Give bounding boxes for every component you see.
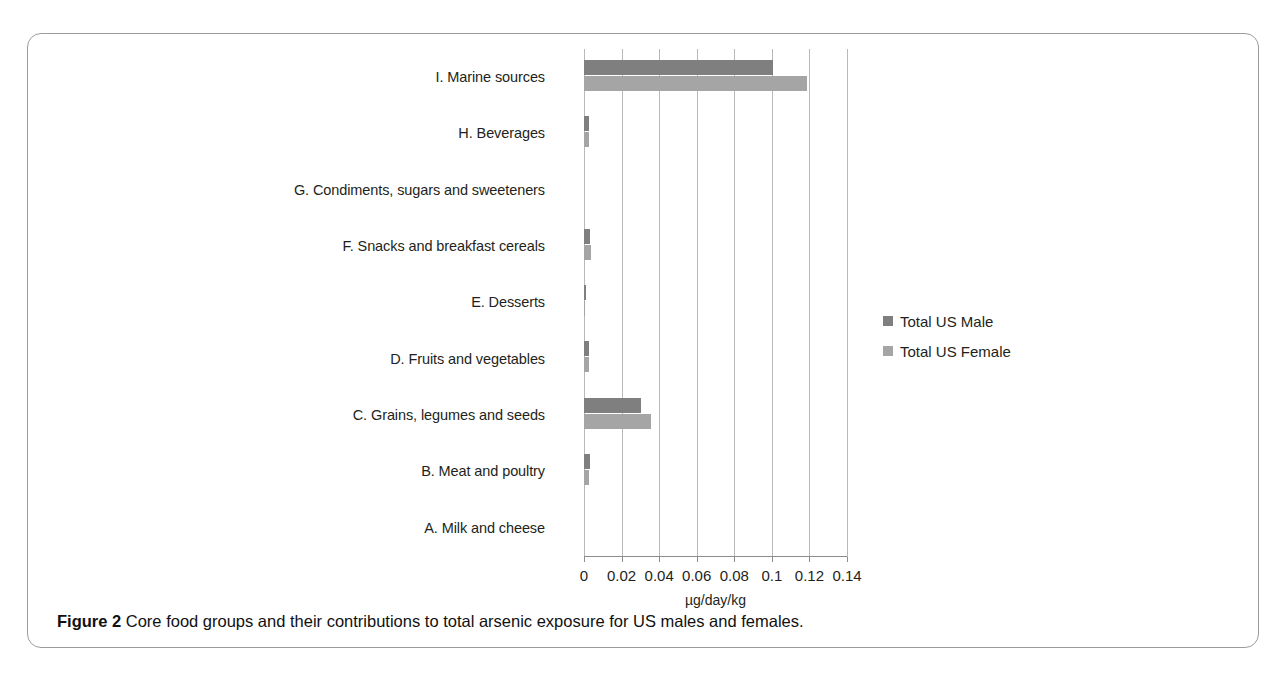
x-tick-label: 0.04 xyxy=(645,567,674,584)
bar-female xyxy=(584,76,807,91)
legend-item: Total US Female xyxy=(883,336,1113,366)
x-tickmark xyxy=(622,557,623,562)
x-tick-label: 0 xyxy=(580,567,588,584)
bars-layer xyxy=(584,49,847,557)
category-label-row: A. Milk and cheese xyxy=(28,499,557,555)
category-label: G. Condiments, sugars and sweeteners xyxy=(294,182,545,198)
bar-female xyxy=(584,245,591,260)
bar-male xyxy=(584,285,586,300)
category-label-row: C. Grains, legumes and seeds xyxy=(28,387,557,443)
figure-caption-text: Core food groups and their contributions… xyxy=(126,612,804,630)
bar-row xyxy=(584,49,847,105)
x-tick-label: 0.08 xyxy=(720,567,749,584)
chart-legend: Total US MaleTotal US Female xyxy=(883,306,1113,366)
category-label-row: G. Condiments, sugars and sweeteners xyxy=(28,162,557,218)
bar-male xyxy=(584,398,641,413)
bar-female xyxy=(584,470,589,485)
category-axis: I. Marine sourcesH. BeveragesG. Condimen… xyxy=(28,49,557,557)
figure-caption: Figure 2 Core food groups and their cont… xyxy=(57,612,1237,631)
category-label: D. Fruits and vegetables xyxy=(390,351,545,367)
plot-area xyxy=(584,49,847,557)
legend-swatch-icon xyxy=(883,346,893,356)
bar-row xyxy=(584,162,847,218)
bar-row xyxy=(584,499,847,555)
legend-label: Total US Female xyxy=(900,343,1011,360)
category-label: H. Beverages xyxy=(458,125,545,141)
category-label-row: I. Marine sources xyxy=(28,49,557,105)
x-tick-label: 0.06 xyxy=(682,567,711,584)
x-axis-title: µg/day/kg xyxy=(584,592,847,608)
category-label: E. Desserts xyxy=(471,294,545,310)
category-label-row: E. Desserts xyxy=(28,274,557,330)
x-tickmark xyxy=(847,557,848,562)
x-tick-label: 0.14 xyxy=(832,567,861,584)
x-tickmark xyxy=(697,557,698,562)
bar-row xyxy=(584,274,847,330)
figure-caption-label: Figure 2 xyxy=(57,612,121,630)
figure-panel: I. Marine sourcesH. BeveragesG. Condimen… xyxy=(27,33,1259,648)
legend-item: Total US Male xyxy=(883,306,1113,336)
category-label-row: D. Fruits and vegetables xyxy=(28,330,557,386)
category-label: A. Milk and cheese xyxy=(424,520,545,536)
bar-female xyxy=(584,132,589,147)
category-label: I. Marine sources xyxy=(435,69,545,85)
bar-female xyxy=(584,301,585,316)
category-label: B. Meat and poultry xyxy=(421,463,545,479)
x-axis-line xyxy=(584,556,847,557)
bar-row xyxy=(584,218,847,274)
x-tickmark xyxy=(809,557,810,562)
bar-row xyxy=(584,330,847,386)
category-label-row: H. Beverages xyxy=(28,105,557,161)
x-tick-label: 0.02 xyxy=(607,567,636,584)
category-label: F. Snacks and breakfast cereals xyxy=(343,238,545,254)
bar-female xyxy=(584,357,589,372)
bar-row xyxy=(584,387,847,443)
x-tick-label: 0.12 xyxy=(795,567,824,584)
bar-male xyxy=(584,341,589,356)
x-tickmark xyxy=(659,557,660,562)
bar-female xyxy=(584,414,651,429)
bar-row xyxy=(584,105,847,161)
category-label-row: F. Snacks and breakfast cereals xyxy=(28,218,557,274)
legend-swatch-icon xyxy=(883,316,893,326)
category-label: C. Grains, legumes and seeds xyxy=(353,407,545,423)
legend-label: Total US Male xyxy=(900,313,993,330)
chart-area: I. Marine sourcesH. BeveragesG. Condimen… xyxy=(28,34,1260,594)
bar-row xyxy=(584,443,847,499)
x-tick-label: 0.1 xyxy=(761,567,782,584)
x-tickmark xyxy=(772,557,773,562)
gridline xyxy=(847,49,848,557)
category-label-row: B. Meat and poultry xyxy=(28,443,557,499)
bar-male xyxy=(584,60,773,75)
bar-male xyxy=(584,116,589,131)
x-tickmark xyxy=(734,557,735,562)
x-tickmark xyxy=(584,557,585,562)
x-tick-labels: 00.020.040.060.080.10.120.14 xyxy=(584,567,847,589)
bar-male xyxy=(584,229,590,244)
bar-male xyxy=(584,454,590,469)
